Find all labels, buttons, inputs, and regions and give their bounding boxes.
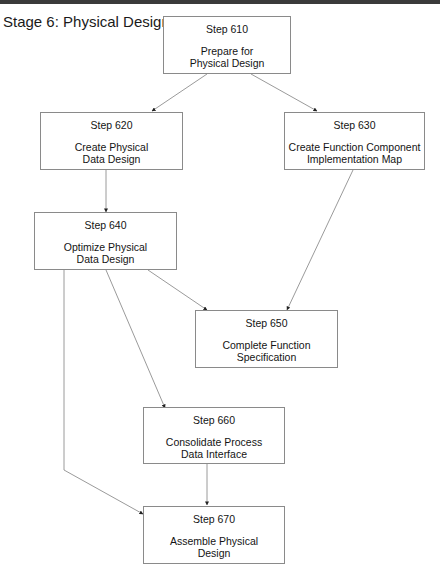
step-630-box: Step 630 Create Function Component Imple… [284, 112, 425, 170]
step-650-number: Step 650 [196, 317, 337, 329]
step-610-label: Prepare for Physical Design [164, 45, 290, 69]
step-620-number: Step 620 [41, 119, 182, 131]
flow-edges [0, 0, 440, 577]
step-660-number: Step 660 [144, 414, 284, 426]
edge-630-650 [287, 170, 353, 310]
step-660-label: Consolidate Process Data Interface [144, 436, 284, 460]
step-670-label: Assemble Physical Design [144, 535, 284, 559]
edge-640-660 [106, 270, 165, 408]
step-670-box: Step 670 Assemble Physical Design [143, 506, 285, 564]
edge-640-650 [148, 270, 207, 310]
step-610-box: Step 610 Prepare for Physical Design [163, 16, 291, 74]
edge-640-670 [64, 270, 143, 514]
edge-610-630 [251, 74, 317, 111]
edge-610-620 [152, 74, 207, 111]
step-630-label: Create Function Component Implementation… [285, 141, 424, 165]
step-640-box: Step 640 Optimize Physical Data Design [34, 212, 177, 270]
step-620-label: Create Physical Data Design [41, 141, 182, 165]
step-650-box: Step 650 Complete Function Specification [195, 310, 338, 368]
step-630-number: Step 630 [285, 119, 424, 131]
step-660-box: Step 660 Consolidate Process Data Interf… [143, 407, 285, 464]
step-620-box: Step 620 Create Physical Data Design [40, 112, 183, 170]
step-670-number: Step 670 [144, 513, 284, 525]
step-650-label: Complete Function Specification [196, 339, 337, 363]
step-610-number: Step 610 [164, 23, 290, 35]
step-640-number: Step 640 [35, 219, 176, 231]
step-640-label: Optimize Physical Data Design [35, 241, 176, 265]
